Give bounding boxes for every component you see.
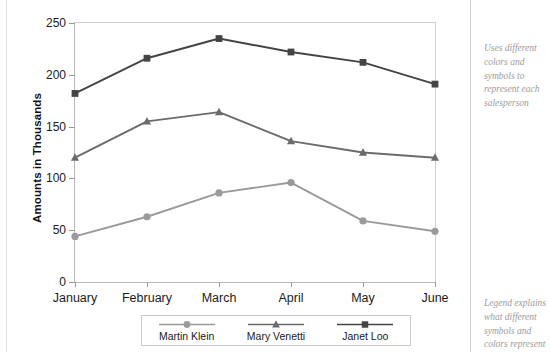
series-line [75,183,435,237]
y-tick-label: 0 [59,275,66,289]
x-tick-mark [219,282,220,287]
y-tick-label: 250 [46,16,66,30]
legend-swatch [156,319,218,330]
series-data-layer [75,23,435,282]
x-tick-mark [147,282,148,287]
legend-items: Martin KleinMary VenettiJanet Loo [142,316,410,345]
square-marker [360,59,367,66]
legend-swatch [334,319,396,330]
legend-item-mary-venetti[interactable]: Mary Venetti [231,316,320,345]
circle-marker [359,217,366,224]
square-marker [72,90,79,97]
legend-label: Janet Loo [342,331,388,342]
annotation-legend-explains: Legend explains what different symbols a… [484,297,546,352]
annotation-colors-symbols: Uses different colors and symbols to rep… [484,42,546,111]
legend-item-martin-klein[interactable]: Martin Klein [142,316,231,345]
x-tick-label: March [202,291,237,305]
circle-marker [71,233,78,240]
x-tick-label: June [421,291,448,305]
legend-label: Martin Klein [159,331,214,342]
page-rule-right [470,0,471,352]
square-marker [216,35,223,42]
plot-inner: 050100150200250 JanuaryFebruaryMarchApri… [75,23,435,282]
square-marker [362,322,368,328]
circle-marker [431,228,438,235]
x-tick-label: February [122,291,172,305]
series-line [75,112,435,158]
circle-marker [143,213,150,220]
y-tick-label: 50 [53,223,66,237]
x-tick-label: May [351,291,375,305]
series-martin-klein [71,179,438,240]
y-tick-label: 150 [46,120,66,134]
chart-legend: Martin KleinMary VenettiJanet Loo [141,315,411,346]
series-line [75,39,435,94]
legend-swatch [245,319,307,330]
x-tick-label: January [53,291,97,305]
x-tick-mark [291,282,292,287]
circle-marker [287,179,294,186]
legend-item-janet-loo[interactable]: Janet Loo [321,316,410,345]
y-tick-label: 100 [46,171,66,185]
x-tick-mark [363,282,364,287]
x-tick-label: April [278,291,303,305]
legend-label: Mary Venetti [247,331,305,342]
square-marker [144,55,151,62]
plot-area: 050100150200250 JanuaryFebruaryMarchApri… [74,22,436,283]
square-marker [288,49,295,56]
circle-marker [215,189,222,196]
y-axis-title: Amounts in Thousands [31,58,43,258]
series-mary-venetti [71,108,439,161]
square-marker [432,81,439,88]
y-tick-label: 200 [46,68,66,82]
x-tick-mark [435,282,436,287]
circle-marker [183,321,190,328]
series-janet-loo [72,35,439,97]
triangle-marker [215,108,223,116]
x-tick-mark [75,282,76,287]
line-chart-figure: Amounts in Thousands 050100150200250 Jan… [0,0,462,352]
